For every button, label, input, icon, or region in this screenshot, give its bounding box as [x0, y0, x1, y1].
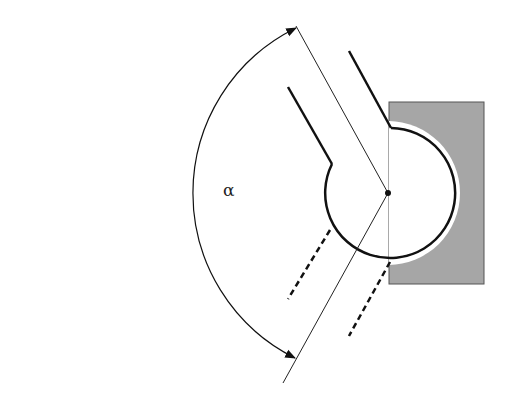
angle-label: α — [223, 180, 235, 200]
diagram-canvas: α — [0, 0, 513, 396]
pivot-point — [385, 190, 391, 196]
reference-line-lower — [283, 193, 388, 383]
shaft-left-solid — [288, 87, 332, 164]
reference-line-upper — [296, 26, 388, 193]
shaft-right-dashed — [349, 262, 390, 336]
shaft-right-solid — [349, 51, 391, 128]
shaft-left-dashed — [288, 230, 330, 299]
angle-arc — [193, 28, 296, 358]
